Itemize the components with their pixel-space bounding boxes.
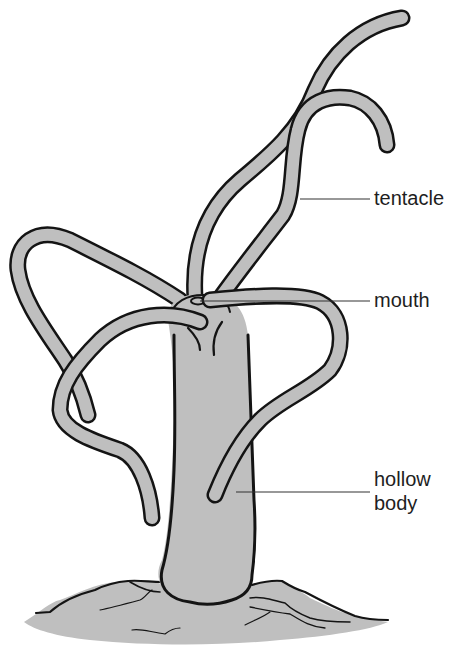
label-hollow-body-line1: hollow	[374, 468, 431, 490]
upper-tentacles	[195, 18, 402, 298]
label-hollow-body-line2: body	[374, 492, 417, 514]
label-tentacle: tentacle	[374, 187, 444, 209]
hydra-diagram	[0, 0, 461, 651]
left-back-tentacle	[18, 235, 180, 415]
label-mouth: mouth	[374, 289, 430, 311]
